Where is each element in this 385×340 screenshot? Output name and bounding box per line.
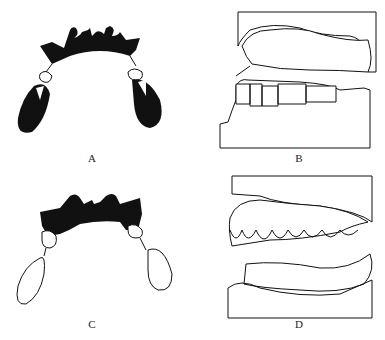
panel-d: D [200, 170, 385, 340]
cast-lateral-b-drawing [200, 0, 385, 170]
cast-lateral-d-drawing [200, 170, 385, 340]
panel-label-a: A [82, 152, 102, 164]
denture-framework-a-drawing [0, 0, 200, 170]
panel-c: C [0, 170, 200, 340]
panel-a: A [0, 0, 200, 170]
denture-framework-c-drawing [0, 170, 200, 340]
panel-label-b: B [289, 152, 309, 164]
panel-label-d: D [289, 318, 309, 330]
panel-label-c: C [82, 318, 102, 330]
panel-b: B [200, 0, 385, 170]
